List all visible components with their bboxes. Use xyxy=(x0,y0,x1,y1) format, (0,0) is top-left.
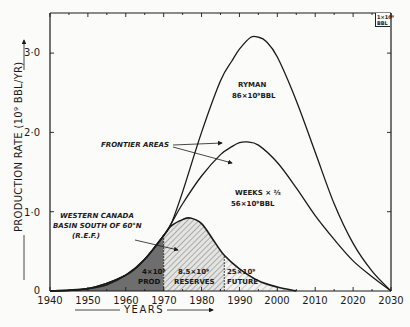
ryman-label: RYMAN xyxy=(238,82,266,89)
x-tick-1940: 1940 xyxy=(37,296,62,306)
wcb-label-line1: WESTERN CANADA xyxy=(60,213,134,220)
x-tick-1990: 1990 xyxy=(227,296,252,306)
ryman-volume: 86×10⁹BBL xyxy=(232,93,276,100)
future-amount: 25×10⁹ xyxy=(227,269,255,276)
prod-amount: 4×10⁹ xyxy=(142,269,166,276)
reserves-amount: 8.5×10⁹ xyxy=(178,269,209,276)
reserves-label: RESERVES xyxy=(174,279,215,286)
weeks-label: WEEKS × ⅔ xyxy=(235,190,281,197)
y-tick-3: 3·0 xyxy=(18,48,40,58)
prod-label: PROD xyxy=(138,279,160,286)
x-tick-1950: 1950 xyxy=(75,296,100,306)
x-tick-2030: 2030 xyxy=(378,296,403,306)
unit-box: 1×10⁹ BBL xyxy=(375,13,390,27)
x-tick-2020: 2020 xyxy=(340,296,365,306)
wcb-label-line2: BASIN SOUTH OF 60°N xyxy=(53,223,142,230)
x-tick-1980: 1980 xyxy=(189,296,214,306)
frontier-areas-label: FRONTIER AREAS xyxy=(101,142,169,149)
x-tick-2000: 2000 xyxy=(264,296,289,306)
y-axis-title: PRODUCTION RATE (10⁹ BBL/YR) xyxy=(14,62,24,233)
unit-line-2: BBL xyxy=(377,20,389,26)
future-label: FUTURE xyxy=(227,279,258,286)
weeks-volume: 56×10⁹BBL xyxy=(231,201,275,208)
wcb-label-line3: (R.E.F.) xyxy=(72,233,100,240)
x-axis-title: YEARS xyxy=(124,305,164,315)
x-tick-2010: 2010 xyxy=(302,296,327,306)
